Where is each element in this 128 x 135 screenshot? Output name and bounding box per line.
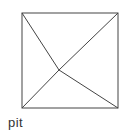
diagonal-bottom-left	[22, 70, 59, 108]
diagram-label: pit	[8, 115, 23, 130]
diagonal-top-left	[22, 13, 59, 70]
diagonal-top-right	[59, 13, 118, 70]
diagonal-bottom-right	[59, 70, 118, 108]
